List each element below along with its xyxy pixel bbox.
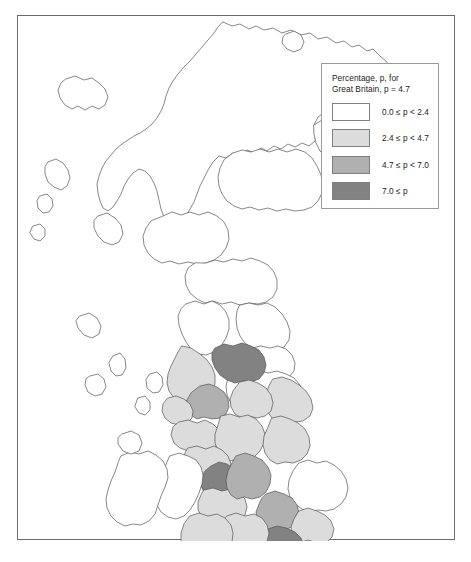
region-anglesey <box>118 431 142 454</box>
region-south-western-scotland <box>143 212 229 264</box>
region-hebrides-south <box>45 159 70 190</box>
region-hebrides-isle-a <box>37 194 53 213</box>
legend-title: Percentage, p, for Great Britain, p = 4.… <box>332 73 430 94</box>
legend-item-class-4: 7.0 ≤ p <box>332 181 430 202</box>
region-outer-hebrides <box>58 76 108 110</box>
region-eastern-scotland <box>218 149 323 211</box>
legend-label-class-2: 2.4 ≤ p < 4.7 <box>382 133 429 143</box>
region-isle-of-mull <box>76 313 101 338</box>
region-isle-of-man <box>146 372 163 393</box>
legend-swatch-class-2 <box>332 129 370 147</box>
legend-label-class-1: 0.0 ≤ p < 2.4 <box>382 107 429 117</box>
legend-swatch-class-4 <box>332 182 370 200</box>
figure-frame: Percentage, p, for Great Britain, p = 4.… <box>17 15 455 540</box>
region-southern-scotland <box>185 258 277 305</box>
map-legend: Percentage, p, for Great Britain, p = 4.… <box>321 63 439 209</box>
region-isle-of-skye <box>94 213 123 245</box>
legend-item-class-1: 0.0 ≤ p < 2.4 <box>332 101 430 122</box>
region-isle-of-jura <box>109 353 126 376</box>
region-east-anglia <box>288 460 348 512</box>
region-hebrides-isle-b <box>30 224 45 241</box>
legend-item-class-3: 4.7 ≤ p < 7.0 <box>332 154 430 175</box>
choropleth-figure: Percentage, p, for Great Britain, p = 4.… <box>0 0 471 562</box>
legend-swatch-class-1 <box>332 103 370 121</box>
region-lincolnshire <box>263 416 310 464</box>
legend-item-class-2: 2.4 ≤ p < 4.7 <box>332 128 430 149</box>
legend-label-class-4: 7.0 ≤ p <box>382 186 408 196</box>
legend-swatch-class-3 <box>332 156 370 174</box>
region-arran <box>135 396 150 415</box>
legend-label-class-3: 4.7 ≤ p < 7.0 <box>382 160 429 170</box>
region-isle-of-islay <box>85 374 106 396</box>
region-west-wales-and-the-valleys <box>106 451 168 526</box>
